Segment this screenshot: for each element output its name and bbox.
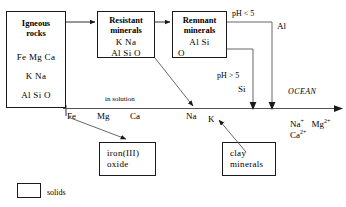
resistant-minerals-title-line-1: Resistant bbox=[98, 15, 154, 25]
path-ph-low-al bbox=[227, 22, 272, 103]
remnant-minerals-box: Remnant minerals Al Si O bbox=[172, 11, 227, 58]
clay-minerals-box: clay minerals bbox=[222, 142, 276, 176]
remnant-minerals-content-line-2: O bbox=[173, 48, 226, 59]
iron-oxide-box: iron(III) oxide bbox=[99, 142, 156, 176]
solution-element-na: Na bbox=[186, 111, 197, 121]
si-label: Si bbox=[238, 85, 246, 94]
ph-high-label: pH > 5 bbox=[217, 71, 239, 80]
clay-minerals-content-line-2: minerals bbox=[230, 159, 275, 170]
iron-oxide-content-line-1: iron(III) bbox=[107, 148, 155, 159]
arrowhead-ph-high bbox=[250, 102, 257, 110]
ocean-arrowhead bbox=[334, 105, 343, 112]
in-solution-label: in solution bbox=[105, 95, 135, 103]
igneous-rocks-title-line-1: Igneous bbox=[7, 18, 65, 28]
solution-element-mg: Mg bbox=[97, 111, 110, 121]
arrowhead-ph-low bbox=[269, 102, 276, 110]
ocean-ion-mg-sup: 2+ bbox=[324, 118, 330, 124]
solution-element-fe: Fe bbox=[67, 111, 76, 121]
ph-low-label: pH < 5 bbox=[232, 9, 254, 18]
resistant-minerals-box: Resistant minerals K Na Al Si O bbox=[97, 11, 155, 58]
solution-element-ca: Ca bbox=[130, 111, 140, 121]
remnant-minerals-content-line-1: Al Si bbox=[173, 37, 226, 48]
resistant-minerals-content-line-1: K Na bbox=[98, 37, 154, 48]
igneous-rocks-content-line-2: K Na bbox=[7, 71, 65, 82]
ocean-label: OCEAN bbox=[288, 87, 316, 96]
iron-oxide-content-line-2: oxide bbox=[107, 159, 155, 170]
clay-minerals-content-line-1: clay bbox=[230, 148, 275, 159]
resistant-minerals-title-line-2: minerals bbox=[98, 25, 154, 35]
remnant-minerals-title-line-1: Remnant bbox=[173, 15, 226, 25]
ocean-ion-mg-base: Mg bbox=[311, 119, 324, 129]
al-label: Al bbox=[277, 22, 286, 31]
ocean-ion-na-sup: + bbox=[301, 118, 304, 124]
igneous-rocks-content-line-3: Al Si O bbox=[7, 90, 65, 101]
ocean-ions-line-2: Ca2+ bbox=[290, 127, 306, 140]
igneous-rocks-title-line-2: rocks bbox=[7, 28, 65, 38]
diagram-canvas: Igneous rocks Fe Mg Ca K Na Al Si O Resi… bbox=[0, 0, 346, 207]
legend-label-solids: solids bbox=[47, 188, 66, 197]
igneous-rocks-content-line-1: Fe Mg Ca bbox=[7, 52, 65, 63]
ocean-ion-ca-base: Ca bbox=[290, 130, 300, 140]
igneous-rocks-box: Igneous rocks Fe Mg Ca K Na Al Si O bbox=[6, 11, 66, 108]
ocean-ion-ca-sup: 2+ bbox=[300, 129, 306, 135]
solution-element-k: K bbox=[208, 114, 215, 124]
remnant-minerals-title-line-2: minerals bbox=[173, 25, 226, 35]
solids-swatch bbox=[17, 183, 41, 198]
resistant-minerals-content-line-2: Al Si O bbox=[98, 48, 154, 59]
arrow-resistant-to-solution bbox=[155, 58, 193, 106]
